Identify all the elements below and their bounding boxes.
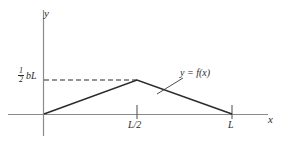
figure-container: y x 1 2 bL L/2 L y = f(x) bbox=[0, 0, 282, 144]
fraction-numerator: 1 bbox=[18, 67, 24, 75]
fraction-denominator: 2 bbox=[18, 76, 24, 84]
x-tick-label-l: L bbox=[228, 120, 234, 130]
y-axis-label: y bbox=[44, 8, 49, 19]
x-axis-label: x bbox=[268, 114, 273, 125]
function-label: y = f(x) bbox=[180, 68, 210, 78]
function-curve bbox=[44, 80, 232, 114]
y-tick-label-half-bl: 1 2 bL bbox=[18, 67, 37, 85]
fraction-one-half: 1 2 bbox=[18, 67, 24, 85]
x-tick-label-l-half: L/2 bbox=[128, 120, 141, 130]
peak-value-suffix: bL bbox=[26, 71, 37, 81]
